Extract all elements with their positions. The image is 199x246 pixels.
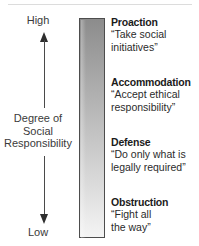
stance-quote-line: “Accept ethical xyxy=(111,88,199,101)
axis-shaft-upper xyxy=(44,40,45,108)
stance-quote-line: the way” xyxy=(111,221,199,234)
social-responsibility-figure: High Degree of Social Responsibility Low… xyxy=(0,0,199,246)
stance-title: Defense xyxy=(111,136,199,148)
arrow-down-icon xyxy=(40,214,48,224)
stance-title: Obstruction xyxy=(111,196,199,208)
axis-caption-line-1: Degree of xyxy=(0,112,76,125)
stance-item-obstruction: Obstruction “Fight all the way” xyxy=(111,196,199,233)
stance-quote-line: initiatives” xyxy=(111,41,199,54)
stance-item-proaction: Proaction “Take social initiatives” xyxy=(111,16,199,53)
top-divider xyxy=(8,4,192,5)
stance-list: Proaction “Take social initiatives” Acco… xyxy=(111,16,199,242)
axis-caption-line-3: Responsibility xyxy=(0,137,76,150)
axis-label-high: High xyxy=(0,14,76,26)
stance-quote-line: “Do only what is xyxy=(111,148,199,161)
axis-caption: Degree of Social Responsibility xyxy=(0,112,76,150)
gradient-bar xyxy=(79,18,105,238)
stance-title: Accommodation xyxy=(111,76,199,88)
stance-quote-line: responsibility” xyxy=(111,101,199,114)
stance-quote-line: “Fight all xyxy=(111,208,199,221)
stance-title: Proaction xyxy=(111,16,199,28)
stance-item-accommodation: Accommodation “Accept ethical responsibi… xyxy=(111,76,199,113)
axis-shaft-lower xyxy=(44,156,45,218)
axis-caption-line-2: Social xyxy=(0,125,76,138)
stance-quote-line: legally required” xyxy=(111,161,199,174)
degree-axis: High Degree of Social Responsibility Low xyxy=(0,14,76,240)
axis-label-low: Low xyxy=(0,226,76,238)
gradient-bar-highlight xyxy=(81,20,86,238)
stance-quote-line: “Take social xyxy=(111,28,199,41)
stance-item-defense: Defense “Do only what is legally require… xyxy=(111,136,199,173)
